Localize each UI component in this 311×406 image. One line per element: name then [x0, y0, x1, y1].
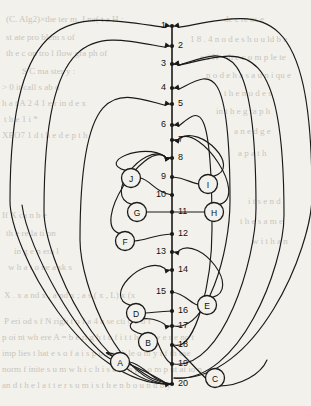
- arrowhead-right-long-6: [173, 122, 180, 127]
- node-dot-3[interactable]: [170, 62, 174, 66]
- node-dot-2[interactable]: [170, 44, 174, 48]
- node-dot-6[interactable]: [170, 123, 174, 127]
- edge-layer: [10, 19, 311, 388]
- node-dot-20[interactable]: [170, 382, 174, 386]
- edge-16-to-D: [146, 311, 173, 313]
- node-label-J: J: [129, 174, 133, 184]
- arrowhead-left-long-2: [164, 43, 171, 48]
- node-dot-15[interactable]: [170, 290, 174, 294]
- node-dot-1[interactable]: [170, 24, 174, 28]
- node-label-E: E: [204, 301, 210, 311]
- node-label-F: F: [122, 237, 127, 247]
- edge-H-to-7: [179, 137, 229, 205]
- node-dot-11[interactable]: [170, 210, 174, 214]
- edge-9-to-I: [172, 177, 199, 184]
- node-label-D: D: [133, 309, 139, 319]
- node-dot-17[interactable]: [170, 324, 174, 328]
- arrowhead-right-long-4: [173, 85, 180, 90]
- node-label-1: 1: [161, 20, 166, 30]
- node-dot-10[interactable]: [170, 193, 174, 197]
- node-label-B: B: [145, 338, 151, 348]
- node-dot-8[interactable]: [170, 156, 174, 160]
- node-label-14: 14: [178, 264, 188, 274]
- node-dot-7[interactable]: [170, 138, 174, 142]
- node-dot-14[interactable]: [170, 268, 174, 272]
- node-label-6: 6: [161, 119, 166, 129]
- node-label-I: I: [207, 180, 209, 190]
- arrowhead-left-long-5: [164, 101, 171, 106]
- node-label-4: 4: [161, 82, 166, 92]
- node-label-5: 5: [178, 98, 183, 108]
- node-dot-13[interactable]: [170, 250, 174, 254]
- node-label-18: 18: [178, 339, 188, 349]
- node-dot-9[interactable]: [170, 175, 174, 179]
- edge-12-to-F: [135, 234, 173, 241]
- arrowhead-right-long-3: [173, 61, 180, 66]
- node-dot-16[interactable]: [170, 309, 174, 313]
- node-label-15: 15: [156, 286, 166, 296]
- node-label-16: 16: [178, 305, 188, 315]
- node-label-C: C: [212, 374, 218, 384]
- flow-graph-canvas: 1234567891011121314151617181920ABCDEFGHI…: [0, 0, 311, 406]
- node-label-20: 20: [178, 378, 188, 388]
- node-label-H: H: [211, 208, 217, 218]
- edge-A-outer-left: [22, 205, 111, 359]
- node-label-9: 9: [161, 171, 166, 181]
- node-label-17: 17: [178, 320, 188, 330]
- node-layer: [111, 24, 225, 388]
- node-label-12: 12: [178, 228, 188, 238]
- node-dot-5[interactable]: [170, 102, 174, 106]
- node-label-11: 11: [178, 206, 187, 216]
- node-label-7: 7: [178, 134, 183, 144]
- node-label-13: 13: [156, 246, 166, 256]
- node-label-10: 10: [156, 189, 166, 199]
- edge-15-to-E: [172, 292, 198, 305]
- node-label-A: A: [117, 358, 123, 368]
- flow-graph-figure: (C. Alg2)×the ter m. J ne( t a H :st ate…: [0, 0, 311, 406]
- node-label-19: 19: [178, 358, 188, 368]
- arrowhead-right-long-1: [173, 23, 180, 28]
- edge-19-to-B: [158, 342, 173, 364]
- long-back-edge-left-to-1: [10, 20, 172, 384]
- long-back-edge-right-to-1: [174, 19, 311, 379]
- edge-I-to-7: [179, 136, 224, 177]
- node-label-2: 2: [178, 40, 183, 50]
- node-dot-18[interactable]: [170, 343, 174, 347]
- node-label-G: G: [134, 208, 141, 218]
- node-dot-12[interactable]: [170, 232, 174, 236]
- node-label-8: 8: [178, 152, 183, 162]
- node-dot-4[interactable]: [170, 86, 174, 90]
- node-label-3: 3: [161, 58, 166, 68]
- node-dot-19[interactable]: [170, 362, 174, 366]
- edge-C-outer-return: [218, 360, 267, 386]
